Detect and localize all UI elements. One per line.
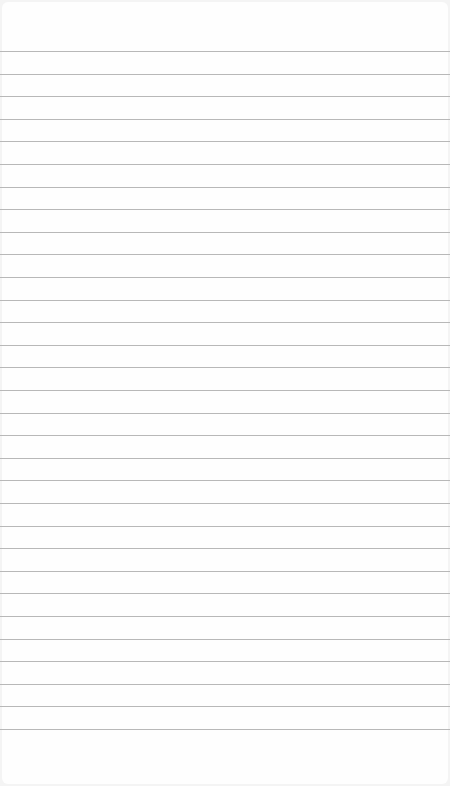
ruled-line	[0, 187, 450, 188]
ruled-line	[0, 51, 450, 52]
ruled-line	[0, 661, 450, 662]
ruled-line	[0, 96, 450, 97]
ruled-line	[0, 119, 450, 120]
ruled-line	[0, 300, 450, 301]
ruled-line	[0, 367, 450, 368]
ruled-line	[0, 571, 450, 572]
ruled-line	[0, 729, 450, 730]
ruled-line	[0, 141, 450, 142]
ruled-line	[0, 413, 450, 414]
ruled-line	[0, 548, 450, 549]
ruled-line	[0, 254, 450, 255]
ruled-line	[0, 458, 450, 459]
ruled-line	[0, 480, 450, 481]
ruled-line	[0, 684, 450, 685]
ruled-line	[0, 74, 450, 75]
ruled-line	[0, 593, 450, 594]
ruled-line	[0, 503, 450, 504]
ruled-line	[0, 277, 450, 278]
ruled-line	[0, 345, 450, 346]
ruled-line	[0, 435, 450, 436]
ruled-line	[0, 164, 450, 165]
ruled-line	[0, 526, 450, 527]
ruled-line	[0, 232, 450, 233]
ruled-line	[0, 322, 450, 323]
ruled-line	[0, 209, 450, 210]
ruled-line	[0, 639, 450, 640]
ruled-line	[0, 706, 450, 707]
ruled-line	[0, 616, 450, 617]
ruled-line	[0, 390, 450, 391]
